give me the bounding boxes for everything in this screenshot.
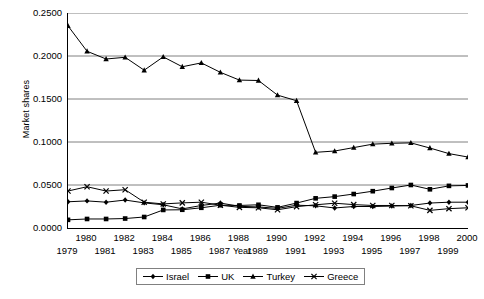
legend-item-israel[interactable]: Israel [143,271,189,282]
x-tick-label: 1990 [260,233,294,243]
x-tick-label: 1994 [336,233,370,243]
x-tick-label: 1998 [412,233,446,243]
legend-marker-triangle-icon [243,272,263,281]
legend-item-label: Greece [327,271,358,282]
legend-marker-x-icon [304,272,324,281]
chart-figure: Market shares 0.00000.05000.10000.15000.… [0,0,484,299]
x-tick-label: 1984 [145,233,179,243]
legend-item-greece[interactable]: Greece [304,271,358,282]
x-tick-label: 1986 [183,233,217,243]
legend-marker-square-icon [198,272,218,281]
data-point-marker [206,274,211,279]
x-tick-label: 1992 [298,233,332,243]
x-tick-label: 1980 [69,233,103,243]
x-tick-label: 1988 [221,233,255,243]
legend-item-label: UK [221,271,234,282]
x-tick-label: 1996 [374,233,408,243]
x-tick-label: 1982 [107,233,141,243]
chart-legend: IsraelUKTurkeyGreece [136,268,365,285]
legend-item-label: Turkey [266,271,295,282]
x-tick-label: 2000 [450,233,484,243]
legend-item-uk[interactable]: UK [198,271,234,282]
x-axis-title: Year [0,246,484,256]
legend-item-label: Israel [166,271,189,282]
legend-marker-diamond-icon [143,272,163,281]
legend-item-turkey[interactable]: Turkey [243,271,295,282]
data-point-marker [151,274,156,279]
